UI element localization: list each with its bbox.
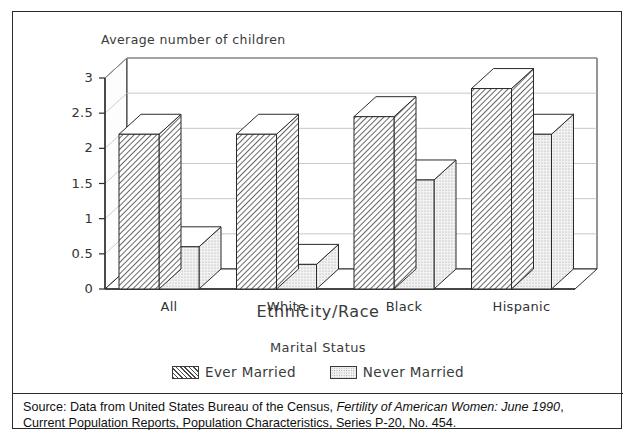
legend: Ever Married Never Married [13, 364, 623, 380]
x-axis-tick-label: All [119, 299, 219, 314]
legend-label-never-married: Never Married [363, 364, 464, 380]
y-axis-tick-label: 0 [47, 281, 93, 296]
legend-swatch-ever-married-icon [172, 366, 199, 379]
x-axis-tick-label: Black [354, 299, 454, 314]
legend-item-never-married: Never Married [330, 364, 464, 380]
y-axis-tick-label: 2 [47, 140, 93, 155]
legend-title: Marital Status [13, 340, 623, 355]
bar-chart-svg [13, 12, 623, 332]
source-suffix: , [560, 400, 564, 414]
legend-item-ever-married: Ever Married [172, 364, 296, 380]
source-divider [13, 393, 623, 394]
legend-swatch-never-married-icon [330, 366, 357, 379]
x-axis-tick-label: Hispanic [472, 299, 572, 314]
y-axis-tick-label: 3 [47, 70, 93, 85]
source-note: Source: Data from United States Bureau o… [23, 400, 609, 431]
chart-plot-area: Average number of children Ethnicity/Rac… [13, 12, 623, 332]
legend-label-ever-married: Ever Married [205, 364, 296, 380]
figure-frame: Average number of children Ethnicity/Rac… [12, 11, 622, 429]
y-axis-tick-label: 1 [47, 211, 93, 226]
source-publication-title: Fertility of American Women: June 1990 [337, 400, 561, 414]
y-axis-tick-label: 2.5 [47, 105, 93, 120]
y-axis-tick-label: 1.5 [47, 176, 93, 191]
figure-page: Average number of children Ethnicity/Rac… [0, 0, 636, 445]
x-axis-tick-label: White [237, 299, 337, 314]
y-axis-tick-label: 0.5 [47, 246, 93, 261]
source-line-2: Current Population Reports, Population C… [23, 416, 456, 430]
source-prefix: Source: Data from United States Bureau o… [23, 400, 337, 414]
